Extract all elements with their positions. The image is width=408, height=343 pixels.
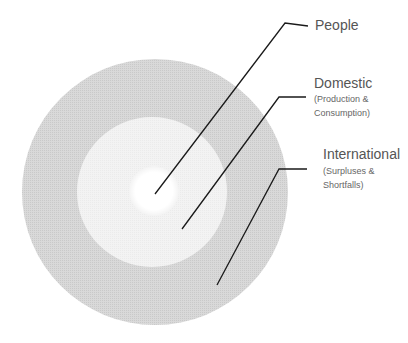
international-label: International	[323, 147, 400, 161]
domestic-subtitle-line-1: (Production &	[314, 95, 369, 104]
people-label: People	[315, 18, 359, 32]
international-subtitle-line-2: Shortfalls)	[323, 181, 364, 190]
international-subtitle-line-1: (Surpluses &	[323, 167, 375, 176]
domestic-subtitle-line-2: Consumption)	[314, 109, 370, 118]
domestic-label: Domestic	[314, 76, 372, 90]
people-center	[129, 166, 179, 216]
